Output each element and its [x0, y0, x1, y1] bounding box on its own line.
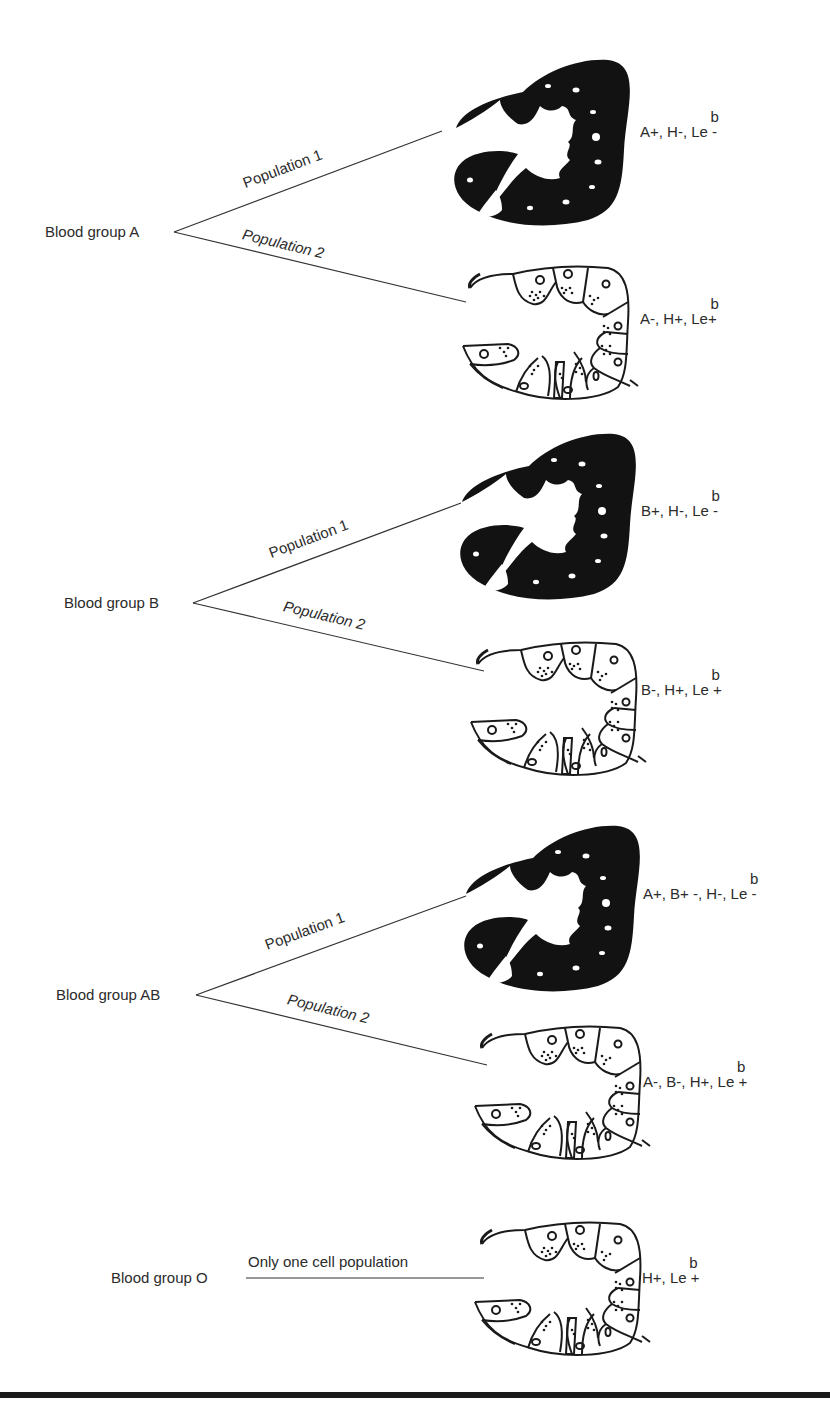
antigen-label: B+, H-, Leb - [641, 503, 718, 518]
superscript: b [711, 296, 719, 311]
antigen-text: - [709, 502, 718, 519]
light-gland-icon [475, 1026, 650, 1159]
antigen-text: - [747, 885, 756, 902]
dark-gland-icon [454, 60, 630, 226]
antigen-label: A-, B-, H+, Leb + [643, 1074, 747, 1089]
superscript: b [712, 667, 720, 682]
antigen-text: A-, H+, L [640, 310, 700, 327]
figure-divider [0, 1392, 830, 1398]
single-population-label: Only one cell population [248, 1254, 408, 1269]
antigen-text: e [700, 310, 708, 327]
antigen-text: + [734, 1073, 747, 1090]
antigen-text: A+, B+ -, H-, L [643, 885, 739, 902]
superscript: b [737, 1059, 745, 1074]
antigen-label: A+, B+ -, H-, Leb - [643, 886, 756, 901]
antigen-text: - [708, 123, 717, 140]
antigen-text: e [726, 1073, 734, 1090]
antigen-label: H+, Leb + [642, 1270, 700, 1285]
antigen-label: A-, H+, Leb+ [640, 311, 717, 326]
antigen-text: + [708, 310, 717, 327]
superscript: b [711, 109, 719, 124]
antigen-text: B-, H+, L [641, 681, 701, 698]
antigen-text: e [701, 681, 709, 698]
antigen-text: A-, B-, H+, L [643, 1073, 726, 1090]
branch-line-population-1 [174, 131, 442, 232]
light-gland-icon [475, 1222, 650, 1355]
antigen-text: H+, L [642, 1269, 678, 1286]
antigen-text: A+, H-, L [640, 123, 700, 140]
antigen-text: + [709, 681, 722, 698]
antigen-label: B-, H+, Leb + [641, 682, 722, 697]
antigen-text: e [739, 885, 747, 902]
group-label-ab: Blood group AB [56, 987, 160, 1002]
dark-gland-icon [460, 434, 636, 600]
light-gland-icon [463, 266, 638, 399]
diagram-canvas [0, 0, 830, 1422]
superscript: b [712, 488, 720, 503]
group-label-a: Blood group A [45, 224, 139, 239]
antigen-text: e [678, 1269, 686, 1286]
superscript: b [689, 1255, 697, 1270]
superscript: b [750, 871, 758, 886]
antigen-text: + [687, 1269, 700, 1286]
antigen-label: A+, H-, Leb - [640, 124, 717, 139]
dark-gland-icon [464, 826, 640, 992]
branch-line-population-2 [174, 232, 466, 302]
antigen-text: B+, H-, L [641, 502, 701, 519]
antigen-text: e [700, 123, 708, 140]
group-label-o: Blood group O [111, 1270, 208, 1285]
branch-line-population-1 [193, 503, 461, 603]
group-label-b: Blood group B [64, 595, 159, 610]
light-gland-icon [471, 642, 646, 775]
antigen-text: e [701, 502, 709, 519]
